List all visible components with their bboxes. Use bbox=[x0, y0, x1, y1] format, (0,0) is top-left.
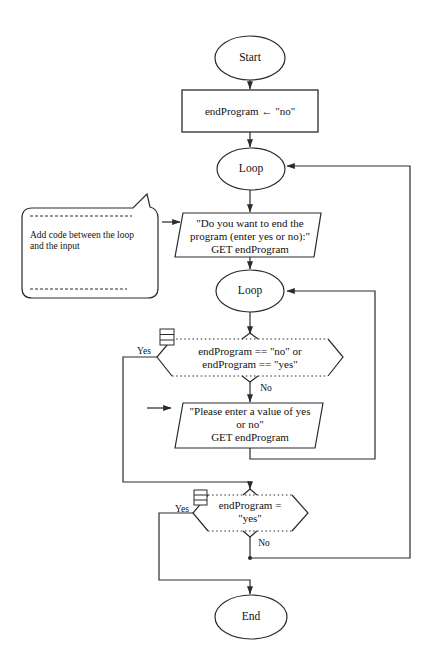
input1-line1: "Do you want to end the bbox=[190, 217, 310, 230]
input2-line3: GET endProgram bbox=[190, 431, 311, 444]
flowchart-canvas: Start endProgram ← "no" Loop "Do you wan… bbox=[0, 0, 447, 672]
decision1-line2: endProgram == "yes" bbox=[198, 358, 302, 371]
decision1-bottom-notch bbox=[242, 376, 258, 382]
decision2-page-icon bbox=[194, 490, 207, 505]
input2-line2: or no" bbox=[190, 418, 311, 431]
decision1-line1: endProgram == "no" or bbox=[198, 345, 302, 358]
decision2-label: endProgram = "yes" bbox=[219, 499, 282, 525]
start-label: Start bbox=[239, 51, 261, 65]
init-label: endProgram ← "no" bbox=[205, 105, 295, 118]
end-label: End bbox=[242, 610, 261, 624]
decision2-no-label: No bbox=[258, 538, 270, 549]
decision2-bottom-notch bbox=[243, 531, 257, 537]
decision2-line1: endProgram = bbox=[219, 499, 282, 512]
decision1-no-label: No bbox=[260, 383, 272, 394]
decision1-page-icon bbox=[160, 329, 174, 345]
input2-label: "Please enter a value of yes or no" GET … bbox=[190, 405, 311, 444]
decision2-line2: "yes" bbox=[219, 512, 282, 525]
input1-label: "Do you want to end the program (enter y… bbox=[190, 217, 310, 256]
decision1-label: endProgram == "no" or endProgram == "yes… bbox=[198, 345, 302, 371]
connector-decision2-yes-to-end bbox=[159, 513, 250, 594]
callout-line1: Add code between the loop bbox=[30, 230, 134, 241]
loop1-label: Loop bbox=[239, 162, 263, 176]
connector-junction-dot bbox=[248, 556, 252, 560]
flowchart-drawing bbox=[0, 0, 447, 672]
callout-text: Add code between the loop and the input bbox=[30, 230, 134, 252]
decision1-right-corner bbox=[328, 339, 343, 376]
input1-line3: GET endProgram bbox=[190, 243, 310, 256]
decision2-right-corner bbox=[292, 495, 308, 531]
loop2-label: Loop bbox=[238, 284, 262, 298]
decision1-yes-label: Yes bbox=[137, 346, 151, 357]
input2-line1: "Please enter a value of yes bbox=[190, 405, 311, 418]
callout-line2: and the input bbox=[30, 241, 134, 252]
decision2-yes-label: Yes bbox=[175, 504, 189, 515]
decision2-top-notch bbox=[243, 489, 257, 495]
input1-line2: program (enter yes or no):" bbox=[190, 230, 310, 243]
